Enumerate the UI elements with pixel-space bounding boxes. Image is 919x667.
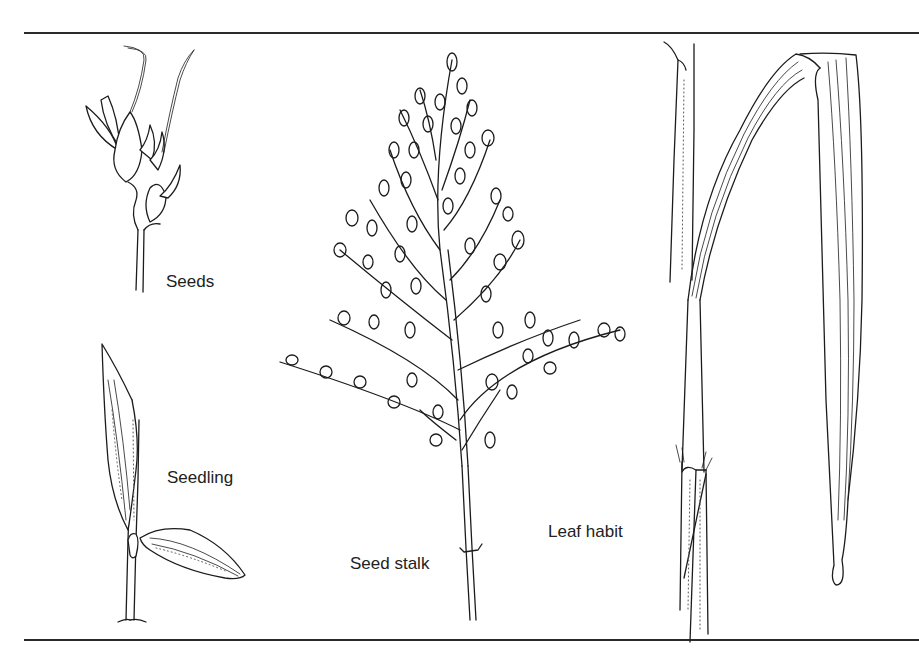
seed-stalk-label: Seed stalk bbox=[350, 555, 429, 572]
seedling-label: Seedling bbox=[167, 469, 233, 486]
seeds-label: Seeds bbox=[166, 273, 214, 290]
seeds-illustration bbox=[86, 46, 194, 292]
leaf-habit-illustration bbox=[664, 42, 862, 642]
plant-illustrations bbox=[0, 0, 919, 667]
botanical-figure: Seeds Seedling Seed stalk Leaf habit bbox=[0, 0, 919, 667]
leaf-habit-label: Leaf habit bbox=[548, 523, 623, 540]
